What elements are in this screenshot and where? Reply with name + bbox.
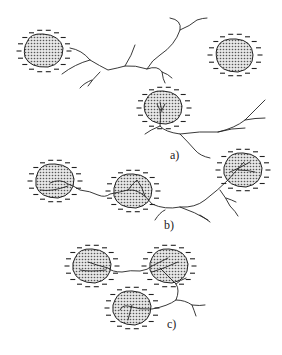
panel-label-a: a) — [170, 148, 179, 163]
diagram-canvas — [0, 0, 282, 355]
panel-label-b: b) — [164, 218, 174, 233]
panel-label-c: c) — [167, 317, 176, 332]
particle-a2 — [216, 39, 253, 72]
particle-c1 — [73, 249, 111, 283]
particle-c3 — [113, 291, 151, 325]
particle-a1 — [24, 34, 63, 67]
particle-b2 — [114, 174, 152, 208]
